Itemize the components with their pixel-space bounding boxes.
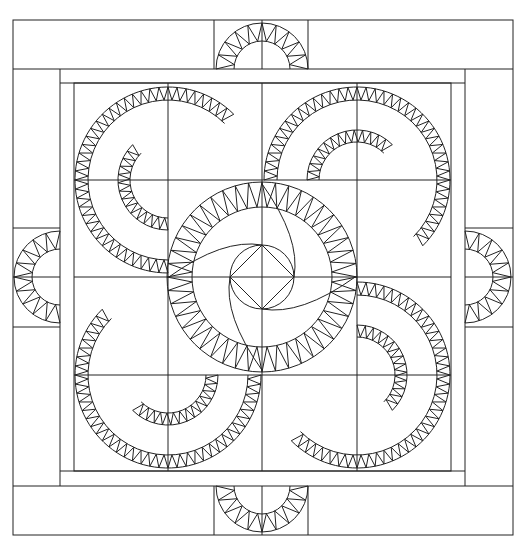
sawtooth-triangle [395,372,407,380]
sawtooth-triangle [311,205,333,227]
center-inner-arc [192,207,262,277]
sawtooth-triangle [216,55,234,69]
sawtooth-triangle [262,347,276,372]
sawtooth-triangle [33,302,47,321]
sawtooth-triangle [437,375,450,384]
sawtooth-triangle [465,231,479,249]
sawtooth-triangle [437,171,450,180]
sawtooth-triangle [357,282,366,295]
petal-curve [229,277,262,370]
sawtooth-triangle [287,499,306,513]
sawtooth-triangle [304,197,324,221]
sawtooth-triangle [348,87,357,100]
sawtooth-triangle [248,514,262,532]
sawtooth-triangle [348,455,357,468]
sawtooth-triangle [75,189,88,198]
sawtooth-triangle [171,413,179,425]
sawtooth-triangle [225,506,242,523]
sawtooth-triangle [262,23,276,41]
sawtooth-triangle [287,42,306,56]
sawtooth-triangle [131,208,142,219]
sawtooth-triangle [330,134,339,146]
sawtooth-triangle [357,325,365,337]
sawtooth-triangle [225,32,242,49]
sawtooth-triangle [159,87,168,100]
sawtooth-triangle [177,87,186,100]
sawtooth-triangle [75,366,88,375]
sawtooth-triangle [282,32,299,49]
quilt-drawing [0,0,520,547]
sawtooth-triangle [200,197,220,221]
sawtooth-triangle [485,297,502,314]
sawtooth-triangle [23,297,40,314]
sawtooth-triangle [373,328,382,341]
sawtooth-triangle [248,375,261,384]
sawtooth-triangle [366,454,375,467]
sawtooth-triangle [162,413,170,425]
sawtooth-triangle [14,263,32,277]
sawtooth-triangle [493,277,511,291]
sawtooth-triangle [478,233,492,252]
sawtooth-triangle [395,364,407,372]
sawtooth-triangle [282,506,299,523]
sawtooth-triangle [357,87,366,100]
sawtooth-triangle [436,384,449,393]
sawtooth-triangle [14,277,32,291]
sawtooth-triangle [304,333,324,357]
sawtooth-triangle [366,87,375,100]
sawtooth-triangle [436,162,449,171]
inner-arc [357,337,395,402]
sawtooth-triangle [235,511,249,530]
sawtooth-triangle [16,250,35,264]
sawtooth-triangle [465,305,479,323]
sawtooth-triangle [318,143,329,154]
sawtooth-triangle [490,250,509,264]
sawtooth-triangle [177,454,186,467]
sawtooth-triangle [75,171,88,180]
sawtooth-triangle [118,174,130,182]
sawtooth-triangle [264,171,277,180]
sawtooth-triangle [75,162,88,171]
sawtooth-triangle [182,319,206,339]
sawtooth-triangle [436,189,449,198]
sawtooth-triangle [332,263,357,277]
sawtooth-triangle [196,401,207,412]
sawtooth-triangle [490,290,509,304]
sawtooth-triangle [493,263,511,277]
sawtooth-triangle [248,23,262,41]
sawtooth-triangle [485,240,502,257]
petal-curve [262,277,355,310]
sawtooth-triangle [75,180,88,189]
sawtooth-triangle [46,231,60,249]
inner-arc [141,375,206,413]
sawtooth-triangle [436,357,449,366]
sawtooth-triangle [218,42,237,56]
sawtooth-triangle [311,326,333,348]
sawtooth-triangle [118,183,130,191]
sawtooth-triangle [391,348,403,357]
center-inner-arc [262,277,332,347]
sawtooth-triangle [23,240,40,257]
sawtooth-triangle [185,409,194,421]
sawtooth-triangle [290,486,308,500]
sawtooth-triangle [200,333,220,357]
sawtooth-triangle [394,381,406,389]
sawtooth-triangle [167,277,192,291]
sawtooth-triangle [363,130,371,142]
sawtooth-triangle [437,180,450,189]
sawtooth-triangle [275,25,289,44]
sawtooth-triangle [160,218,168,230]
sawtooth-triangle [307,172,319,180]
sawtooth-triangle [216,486,234,500]
sawtooth-triangle [46,305,60,323]
center-inner-arc [262,207,332,277]
petal-curve [169,244,262,277]
sawtooth-triangle [168,87,177,100]
block-grid [74,83,451,471]
inner-arc [130,153,168,218]
sawtooth-triangle [190,326,212,348]
sawtooth-triangle [190,205,212,227]
sawtooth-triangle [154,412,162,424]
sawtooth-triangle [366,282,375,295]
sawtooth-triangle [118,166,130,174]
